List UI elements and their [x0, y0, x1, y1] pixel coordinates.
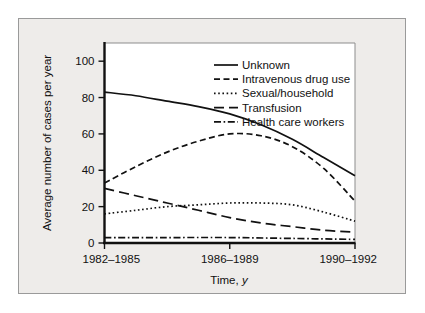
x-tick-label: 1986–1989 — [201, 253, 259, 265]
y-tick-label: 80 — [82, 92, 95, 104]
y-tick-label: 100 — [75, 55, 94, 67]
legend-label: Health care workers — [242, 116, 345, 128]
x-axis-title: Time, y — [210, 274, 249, 286]
x-axis-tick-labels: 1982–19851986–19891990–1992 — [83, 253, 378, 265]
y-axis-title: Average number of cases per year — [41, 55, 53, 231]
line-chart-svg: 020406080100 1982–19851986–19891990–1992… — [19, 19, 407, 295]
legend-label: Sexual/household — [242, 87, 333, 99]
y-tick-label: 20 — [82, 201, 95, 213]
x-tick-label: 1982–1985 — [83, 253, 141, 265]
y-tick-label: 40 — [82, 164, 95, 176]
legend-label: Intravenous drug use — [242, 73, 350, 85]
chart-plot-area: 020406080100 1982–19851986–19891990–1992… — [19, 19, 407, 295]
figure-panel: 020406080100 1982–19851986–19891990–1992… — [18, 18, 406, 294]
x-axis-title-main: Time, — [210, 274, 238, 286]
legend-label: Unknown — [242, 59, 290, 71]
figure-container: 020406080100 1982–19851986–19891990–1992… — [0, 0, 425, 313]
y-tick-label: 60 — [82, 128, 95, 140]
legend-label: Transfusion — [242, 102, 302, 114]
y-tick-label: 0 — [88, 237, 94, 249]
x-tick-label: 1990–1992 — [319, 253, 377, 265]
y-axis-tick-labels: 020406080100 — [75, 55, 94, 249]
x-axis-title-italic: y — [241, 274, 249, 286]
